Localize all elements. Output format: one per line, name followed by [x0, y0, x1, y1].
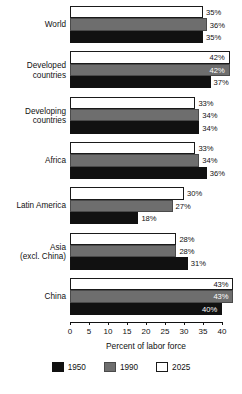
- bar-row[interactable]: 40%: [70, 303, 242, 315]
- bar-row[interactable]: 28%: [70, 233, 242, 245]
- bar-row[interactable]: 33%: [70, 97, 242, 109]
- bar-1950[interactable]: [70, 303, 222, 315]
- legend-label: 1990: [120, 363, 138, 372]
- bar-row[interactable]: 37%: [70, 76, 242, 88]
- bar-row[interactable]: 35%: [70, 31, 242, 43]
- bar-row[interactable]: 35%: [70, 6, 242, 18]
- category-label: Developingcountries: [0, 106, 66, 125]
- bar-row[interactable]: 43%: [70, 290, 242, 302]
- bar-value-label: 31%: [189, 259, 206, 268]
- bar-1950[interactable]: [70, 167, 207, 179]
- bar-row[interactable]: 36%: [70, 18, 242, 30]
- bar-row[interactable]: 30%: [70, 187, 242, 199]
- x-axis-tick-label: 35: [199, 327, 208, 336]
- legend-item[interactable]: 2025: [156, 362, 190, 372]
- bar-value-label: 37%: [212, 78, 229, 87]
- bar-stack: 42%42%37%: [70, 51, 242, 89]
- bar-value-label: 35%: [204, 8, 221, 17]
- bar-value-label: 34%: [200, 111, 217, 120]
- bar-row[interactable]: 42%: [70, 51, 242, 63]
- category-label-line: Latin America: [0, 201, 66, 210]
- x-axis-tick-label: 25: [161, 327, 170, 336]
- bar-1950[interactable]: [70, 257, 188, 269]
- bar-row[interactable]: 34%: [70, 121, 242, 133]
- category-label-line: Developed: [0, 61, 66, 70]
- bar-row[interactable]: 34%: [70, 109, 242, 121]
- x-axis-tick-label: 0: [68, 327, 72, 336]
- bar-2025[interactable]: [70, 233, 176, 245]
- bar-2025[interactable]: [70, 51, 230, 63]
- bar-2025[interactable]: [70, 97, 195, 109]
- bar-row[interactable]: 34%: [70, 154, 242, 166]
- bar-1990[interactable]: [70, 200, 173, 212]
- x-axis-tick-label: 15: [123, 327, 132, 336]
- bar-row[interactable]: 28%: [70, 245, 242, 257]
- bar-value-label: 28%: [177, 234, 194, 243]
- legend-item[interactable]: 1950: [52, 362, 86, 372]
- bar-group: World35%36%35%: [0, 6, 242, 44]
- bar-value-label: 42%: [210, 65, 225, 74]
- bar-value-label: 42%: [210, 53, 225, 62]
- bar-2025[interactable]: [70, 142, 195, 154]
- x-axis-tick-label: 5: [87, 327, 91, 336]
- bar-group: Latin America30%27%18%: [0, 187, 242, 225]
- legend-swatch: [52, 362, 64, 372]
- x-axis-tick: [108, 322, 109, 325]
- category-label-line: World: [0, 20, 66, 29]
- bar-stack: 43%43%40%: [70, 278, 242, 316]
- category-label: Africa: [0, 156, 66, 165]
- bar-value-label: 43%: [213, 279, 228, 288]
- bar-value-label: 34%: [200, 156, 217, 165]
- category-label: Developedcountries: [0, 61, 66, 80]
- bar-value-label: 33%: [196, 98, 213, 107]
- bar-1990[interactable]: [70, 245, 176, 257]
- bar-row[interactable]: 18%: [70, 212, 242, 224]
- bar-stack: 35%36%35%: [70, 6, 242, 44]
- bar-1990[interactable]: [70, 290, 233, 302]
- chart-legend: 195019902025: [0, 362, 242, 372]
- category-label: Asia(excl. China): [0, 242, 66, 261]
- x-axis-tick-label: 30: [180, 327, 189, 336]
- bar-1990[interactable]: [70, 109, 199, 121]
- bar-1990[interactable]: [70, 64, 230, 76]
- x-axis-tick-container: 0510152025303540: [70, 322, 222, 338]
- legend-label: 1950: [68, 363, 86, 372]
- bar-row[interactable]: 42%: [70, 64, 242, 76]
- bar-value-label: 27%: [174, 201, 191, 210]
- bar-stack: 33%34%34%: [70, 97, 242, 135]
- bar-1950[interactable]: [70, 76, 211, 88]
- legend-swatch: [104, 362, 116, 372]
- labor-force-bar-chart: World35%36%35%Developedcountries42%42%37…: [0, 0, 242, 394]
- category-label: Latin America: [0, 201, 66, 210]
- bar-row[interactable]: 27%: [70, 200, 242, 212]
- x-axis-tick-label: 20: [142, 327, 151, 336]
- bar-2025[interactable]: [70, 6, 203, 18]
- legend-item[interactable]: 1990: [104, 362, 138, 372]
- bar-value-label: 35%: [204, 32, 221, 41]
- bar-2025[interactable]: [70, 187, 184, 199]
- bar-value-label: 33%: [196, 144, 213, 153]
- bar-row[interactable]: 36%: [70, 167, 242, 179]
- x-axis-tick: [165, 322, 166, 325]
- bar-1950[interactable]: [70, 121, 199, 133]
- bar-row[interactable]: 31%: [70, 257, 242, 269]
- x-axis-tick: [222, 322, 223, 325]
- bar-stack: 28%28%31%: [70, 233, 242, 271]
- bar-value-label: 36%: [208, 20, 225, 29]
- x-axis-tick: [146, 322, 147, 325]
- bar-value-label: 40%: [202, 304, 217, 313]
- legend-swatch: [156, 362, 168, 372]
- bar-stack: 33%34%36%: [70, 142, 242, 180]
- bar-1990[interactable]: [70, 18, 207, 30]
- bar-group: China43%43%40%: [0, 278, 242, 316]
- bar-row[interactable]: 43%: [70, 278, 242, 290]
- x-axis-tick: [127, 322, 128, 325]
- bar-1990[interactable]: [70, 154, 199, 166]
- bar-value-label: 43%: [213, 292, 228, 301]
- bar-row[interactable]: 33%: [70, 142, 242, 154]
- x-axis-title: Percent of labor force: [70, 341, 222, 351]
- bar-1950[interactable]: [70, 31, 203, 43]
- bar-2025[interactable]: [70, 278, 233, 290]
- category-label: World: [0, 20, 66, 29]
- bar-1950[interactable]: [70, 212, 138, 224]
